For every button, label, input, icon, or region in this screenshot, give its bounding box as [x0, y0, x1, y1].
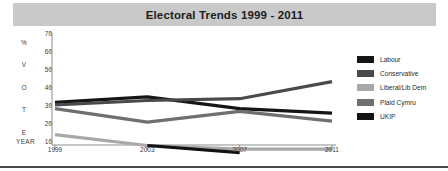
chart-legend: LabourConservativeLiberal/Lib DemPlaid C… [357, 52, 447, 124]
legend-item[interactable]: Conservative [357, 66, 447, 80]
legend-item[interactable]: Liberal/Lib Dem [357, 81, 447, 95]
legend-item[interactable]: UKIP [357, 110, 447, 124]
legend-swatch-icon [357, 56, 374, 63]
chart-title-bar: Electoral Trends 1999 - 2011 [13, 3, 436, 26]
legend-swatch-icon [357, 99, 374, 106]
x-tick-label: 2003 [140, 146, 154, 153]
legend-swatch-icon [357, 70, 374, 77]
legend-label: Plaid Cymru [380, 99, 416, 106]
legend-item[interactable]: Labour [357, 52, 447, 66]
page-title: Electoral Trends 1999 - 2011 [146, 9, 304, 21]
legend-swatch-icon [357, 84, 374, 91]
legend-label: UKIP [380, 113, 395, 120]
legend-swatch-icon [357, 113, 374, 120]
x-tick-label: 1999 [48, 146, 62, 153]
x-tick-label: 2007 [232, 146, 246, 153]
legend-label: Liberal/Lib Dem [380, 84, 426, 91]
footer-divider [0, 166, 448, 168]
legend-label: Labour [380, 56, 401, 63]
legend-item[interactable]: Plaid Cymru [357, 95, 447, 109]
x-axis-ticks: 1999200320072011 [0, 138, 448, 160]
x-tick-label: 2011 [325, 146, 339, 153]
legend-label: Conservative [380, 70, 418, 77]
